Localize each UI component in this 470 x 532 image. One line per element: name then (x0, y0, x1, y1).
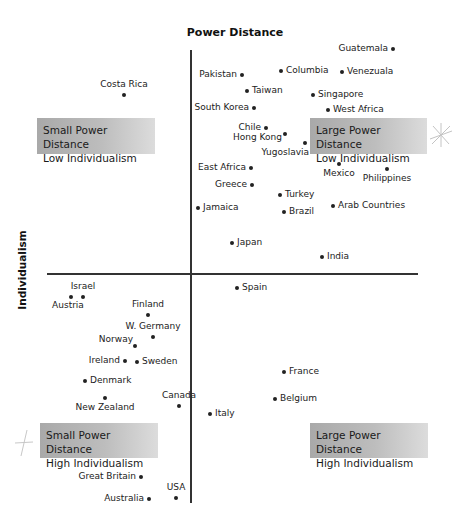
data-point-label: USA (167, 482, 186, 493)
data-point-label: Mexico (323, 168, 354, 179)
data-point (196, 206, 200, 210)
quadrant-line-1: Small Power Distance (46, 428, 152, 456)
data-point (273, 397, 277, 401)
x-axis-title: Power Distance (0, 26, 470, 39)
data-point-label: East Africa (198, 162, 246, 173)
quadrant-label-large-pd-high-ind: Large Power Distance High Individualism (310, 423, 428, 458)
data-point-label: Great Britain (78, 471, 136, 482)
data-point-label: Taiwan (252, 85, 283, 96)
data-point-label: Philippines (363, 173, 412, 184)
quadrant-line-2: Low Individualism (43, 151, 149, 165)
quadrant-line-2: High Individualism (46, 456, 152, 470)
data-point-label: Israel (71, 281, 96, 292)
data-point (385, 167, 389, 171)
data-point-label: Denmark (90, 375, 131, 386)
data-point (331, 204, 335, 208)
data-point-label: New Zealand (75, 402, 134, 413)
data-point-label: West Africa (333, 104, 384, 115)
data-point-label: W. Germany (126, 321, 181, 332)
data-point-label: Australia (104, 493, 144, 504)
data-point (177, 404, 181, 408)
data-point (391, 47, 395, 51)
data-point-label: Finland (132, 299, 164, 310)
data-point (278, 193, 282, 197)
data-point (249, 166, 253, 170)
data-point (240, 73, 244, 77)
data-point (235, 286, 239, 290)
pen-stroke-mark-icon (14, 428, 34, 458)
quadrant-label-large-pd-low-ind: Large Power Distance Low Individualism (310, 118, 427, 154)
data-point (230, 241, 234, 245)
data-point-label: Italy (215, 408, 235, 419)
data-point-label: Yugoslavia (262, 147, 309, 158)
data-point (326, 108, 330, 112)
quadrant-line-1: Small Power Distance (43, 123, 149, 151)
data-point-label: Greece (215, 179, 247, 190)
data-point (303, 141, 307, 145)
data-point (279, 69, 283, 73)
data-point-label: France (289, 366, 319, 377)
data-point (139, 475, 143, 479)
data-point-label: Norway (99, 334, 133, 345)
data-point-label: Sweden (142, 356, 178, 367)
data-point-label: Belgium (280, 393, 317, 404)
data-point-label: India (327, 251, 349, 262)
data-point (340, 70, 344, 74)
data-point-label: Ireland (89, 355, 120, 366)
starburst-mark-icon (428, 122, 454, 148)
data-point (151, 335, 155, 339)
data-point (174, 496, 178, 500)
data-point (147, 497, 151, 501)
data-point (122, 93, 126, 97)
data-point (282, 210, 286, 214)
data-point (83, 379, 87, 383)
data-point (283, 132, 287, 136)
vertical-axis-line (190, 50, 192, 503)
data-point-label: Canada (162, 390, 196, 401)
data-point-label: Venezuala (347, 66, 393, 77)
data-point (81, 295, 85, 299)
data-point (264, 126, 268, 130)
quadrant-line-2: Low Individualism (316, 151, 421, 165)
data-point-label: Arab Countries (338, 200, 405, 211)
data-point-label: Brazil (289, 206, 314, 217)
quadrant-line-2: High Individualism (316, 456, 422, 470)
data-point-label: Japan (237, 237, 262, 248)
quadrant-label-small-pd-high-ind: Small Power Distance High Individualism (40, 423, 158, 458)
data-point (133, 344, 137, 348)
data-point-label: Columbia (286, 65, 329, 76)
data-point-label: Costa Rica (100, 79, 148, 90)
data-point-label: Pakistan (199, 69, 237, 80)
data-point-label: Hong Kong (233, 132, 282, 143)
data-point-label: South Korea (194, 102, 249, 113)
data-point-label: Turkey (285, 189, 314, 200)
data-point-label: Austria (52, 300, 84, 311)
quadrant-line-1: Large Power Distance (316, 428, 422, 456)
data-point (337, 162, 341, 166)
data-point (146, 313, 150, 317)
data-point-label: Spain (242, 282, 267, 293)
data-point (69, 295, 73, 299)
data-point (252, 106, 256, 110)
data-point (103, 396, 107, 400)
data-point (250, 183, 254, 187)
data-point-label: Guatemala (338, 43, 388, 54)
y-axis-title: Individualism (16, 230, 28, 309)
data-point (135, 360, 139, 364)
horizontal-axis-line (47, 273, 418, 275)
data-point-label: Singapore (318, 89, 363, 100)
data-point (311, 93, 315, 97)
data-point (245, 89, 249, 93)
data-point (208, 412, 212, 416)
data-point (123, 359, 127, 363)
quadrant-line-1: Large Power Distance (316, 123, 421, 151)
data-point-label: Jamaica (203, 202, 238, 213)
cultural-dimensions-scatter-chart: Power Distance Individualism Small Power… (0, 0, 470, 532)
data-point (282, 370, 286, 374)
quadrant-label-small-pd-low-ind: Small Power Distance Low Individualism (37, 118, 155, 154)
data-point (320, 255, 324, 259)
